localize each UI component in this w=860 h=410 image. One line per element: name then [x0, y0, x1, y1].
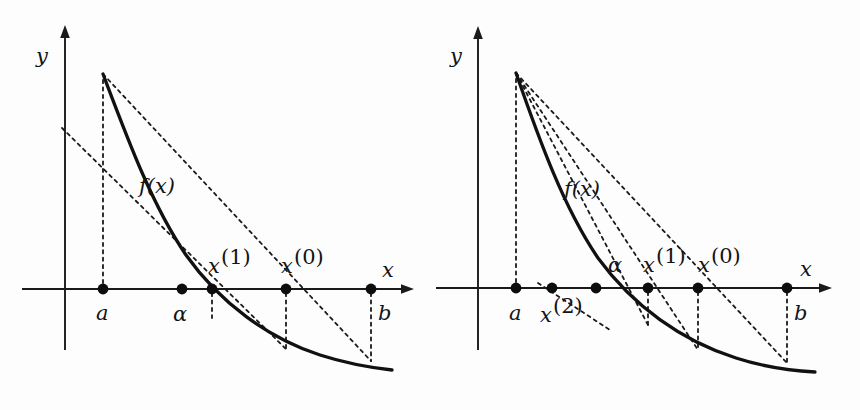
y-axis-label-right: y: [449, 44, 463, 68]
x-axis-label-left: x: [382, 258, 394, 282]
point-alpha-left: [177, 284, 188, 295]
point-x0-right: [693, 283, 704, 294]
y-axis-label-left: y: [35, 44, 49, 68]
curve-label-left: f(x): [137, 174, 175, 198]
svg-text:x: x: [208, 254, 220, 278]
function-curve-right: [516, 73, 815, 372]
label-a-right: a: [509, 301, 522, 325]
label-b-left: b: [378, 301, 391, 325]
y-axis-right: [473, 26, 483, 350]
point-a-left: [98, 284, 109, 295]
label-alpha-right: α: [608, 253, 622, 277]
regula-falsi-panel-right: y x f(x) a α b x (2) x (1) x (0): [430, 0, 860, 410]
svg-text:x: x: [540, 303, 552, 327]
svg-text:x: x: [281, 254, 293, 278]
function-curve-left: [103, 74, 392, 370]
label-x1-right: x (1): [643, 244, 686, 277]
figure-root: y x f(x) a α b x (1) x (0): [0, 0, 860, 410]
x-axis-right: [436, 283, 832, 293]
svg-text:(0): (0): [711, 244, 741, 268]
label-b-right: b: [794, 301, 807, 325]
x-axis-label-right: x: [800, 257, 812, 281]
label-x0-right: x (0): [698, 244, 741, 277]
label-alpha-left: α: [173, 302, 187, 326]
point-b-right: [782, 283, 793, 294]
regula-falsi-panel-left: y x f(x) a α b x (1) x (0): [0, 0, 430, 410]
svg-text:(2): (2): [553, 294, 583, 318]
point-x0-left: [281, 284, 292, 295]
point-x1-right: [643, 283, 654, 294]
svg-text:(0): (0): [294, 245, 324, 269]
label-a-left: a: [96, 301, 109, 325]
y-axis-left: [60, 25, 70, 350]
point-a-right: [511, 283, 522, 294]
point-b-left: [366, 284, 377, 295]
svg-text:(1): (1): [221, 245, 251, 269]
label-x1-left: x (1): [208, 245, 251, 278]
svg-text:x: x: [643, 253, 655, 277]
label-x2-right: x (2): [540, 294, 583, 327]
label-x0-left: x (0): [281, 245, 324, 278]
svg-text:x: x: [698, 253, 710, 277]
svg-text:(1): (1): [656, 244, 686, 268]
point-x2-right: [547, 283, 558, 294]
chord-a-b-left: [103, 74, 371, 361]
chord-a-b-right: [516, 73, 787, 363]
curve-label-right: f(x): [562, 177, 600, 201]
point-x1-left: [207, 284, 218, 295]
point-alpha-right: [591, 283, 602, 294]
